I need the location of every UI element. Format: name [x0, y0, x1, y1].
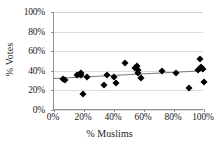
y-axis-tick [51, 12, 54, 13]
gridline-horizontal [54, 110, 203, 111]
y-axis-tick [51, 32, 54, 33]
data-point [137, 74, 144, 81]
data-point [79, 91, 86, 98]
data-point [103, 71, 110, 78]
plot-area [53, 12, 203, 110]
data-point [196, 55, 203, 62]
gridline-horizontal [54, 51, 203, 52]
x-axis-tick-label: 40% [105, 112, 122, 122]
x-axis-tick-label: 100% [192, 112, 213, 122]
x-axis-tick-label: 60% [135, 112, 152, 122]
y-axis-tick-label: 40% [28, 66, 45, 76]
y-axis-tick [51, 51, 54, 52]
y-axis-tick-label: 60% [28, 46, 45, 56]
y-axis-tick [51, 71, 54, 72]
y-axis-title: % Votes [4, 30, 15, 90]
y-axis-tick-label: 20% [28, 85, 45, 95]
y-axis-tick-label: 80% [28, 27, 45, 37]
scatter-chart: 0%20%40%60%80%100% 0%20%40%60%80%100% % … [0, 0, 219, 149]
data-point [121, 59, 128, 66]
gridline-horizontal [54, 32, 203, 33]
gridline-horizontal [54, 12, 203, 13]
x-axis-tick-label: 20% [75, 112, 92, 122]
x-axis-title: % Muslims [0, 128, 219, 139]
data-point [100, 81, 107, 88]
data-point [83, 73, 90, 80]
y-axis-tick-label: 100% [24, 7, 45, 17]
data-point [200, 78, 207, 85]
gridline-horizontal [54, 90, 203, 91]
x-axis-tick-labels: 0%20%40%60%80%100% [53, 112, 203, 126]
y-axis-tick [51, 90, 54, 91]
y-axis-tick-label: 0% [33, 105, 45, 115]
x-axis-tick-label: 80% [165, 112, 182, 122]
x-axis-tick-label: 0% [47, 112, 59, 122]
